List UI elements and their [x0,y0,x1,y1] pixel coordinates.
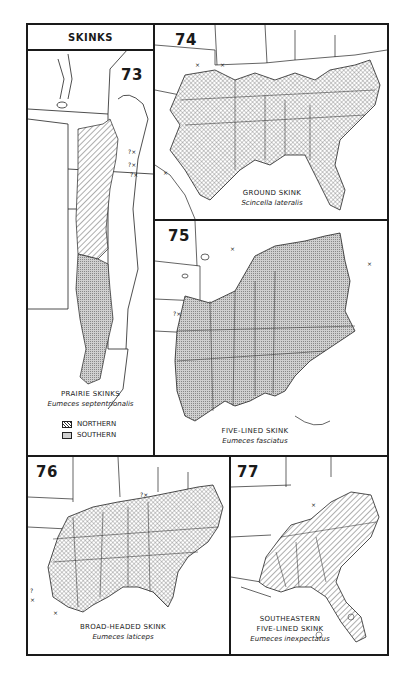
map-number-73: 73 [121,66,143,84]
diagonal-hatch-swatch-icon [62,421,72,428]
map-panel-75: ?××× 75 FIVE-LINED SKINK Eumeces fasciat… [155,221,387,455]
range-northern [76,119,118,259]
stipple-swatch-icon [62,432,72,439]
common-name: BROAD-HEADED SKINK [63,622,183,632]
legend-item-northern: NORTHERN [62,419,116,430]
map-75-svg: ?××× [155,221,387,455]
map-caption-73: PRAIRIE SKINKS Eumeces septentrionalis [28,389,153,409]
svg-text:×: × [53,609,58,616]
svg-text:?×: ?× [128,148,136,155]
svg-text:×: × [311,501,316,508]
common-name-line2: FIVE-LINED SKINK [235,624,345,634]
map-legend-73: NORTHERN SOUTHERN [62,419,116,441]
map-number-74: 74 [175,31,197,49]
common-name: FIVE-LINED SKINK [200,426,310,436]
common-name: GROUND SKINK [217,188,327,198]
map-number-76: 76 [36,463,58,481]
scientific-name: Eumeces inexpectatus [235,634,345,644]
map-caption-77: SOUTHEASTERN FIVE-LINED SKINK Eumeces in… [235,614,345,644]
map-panel-74: ××× 74 GROUND SKINK Scincella lateralis [155,25,387,219]
svg-text:×: × [230,245,235,252]
svg-text:?: ? [30,587,33,594]
svg-text:×: × [163,169,168,176]
legend-label: NORTHERN [77,419,116,430]
map-caption-76: BROAD-HEADED SKINK Eumeces laticeps [63,622,183,642]
map-panel-77: × 77 SOUTHEASTERN FIVE-LINED SKINK Eumec… [231,457,387,654]
map-panel-73: ?×?×?× 73 PRAIRIE SKINKS Eumeces septent… [28,49,153,455]
svg-text:×: × [367,260,372,267]
svg-text:×: × [220,61,225,68]
map-caption-74: GROUND SKINK Scincella lateralis [217,188,327,208]
svg-text:×: × [30,596,35,603]
common-name: PRAIRIE SKINKS [28,389,153,399]
legend-item-southern: SOUTHERN [62,430,116,441]
plate-title: SKINKS [26,23,155,51]
range-southern [76,254,113,384]
map-panel-76: ?×?×× 76 BROAD-HEADED SKINK Eumeces lati… [28,457,229,654]
scientific-name: Eumeces fasciatus [200,436,310,446]
svg-text:?×: ?× [173,310,181,317]
map-caption-75: FIVE-LINED SKINK Eumeces fasciatus [200,426,310,446]
svg-text:?×: ?× [128,161,136,168]
scientific-name: Eumeces septentrionalis [28,399,153,409]
svg-text:?×: ?× [140,491,148,498]
legend-label: SOUTHERN [77,430,116,441]
svg-text:?×: ?× [130,171,138,178]
svg-text:×: × [195,61,200,68]
common-name-line1: SOUTHEASTERN [235,614,345,624]
scientific-name: Scincella lateralis [217,198,327,208]
scientific-name: Eumeces laticeps [63,632,183,642]
map-number-75: 75 [168,227,190,245]
map-number-77: 77 [237,463,259,481]
